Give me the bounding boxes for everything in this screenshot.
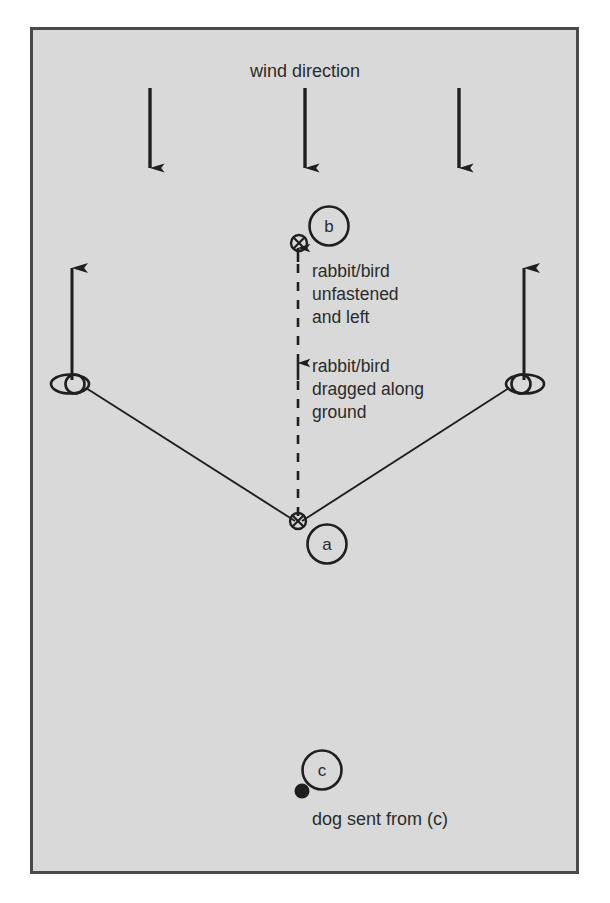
node-a-label: a [322,535,332,554]
annotation-lower-line-3: ground [312,402,367,422]
annotation-upper-line-1: rabbit/bird [312,261,390,281]
node-b-label: b [324,217,333,236]
dog-sent-caption: dog sent from (c) [312,809,448,829]
annotation-upper-line-2: unfastened [312,284,399,304]
annotation-lower-line-1: rabbit/bird [312,356,390,376]
scent-trail-diagram: wind direction [0,0,610,903]
figure-root: wind direction [0,0,610,903]
node-c-label: c [318,761,327,780]
wind-direction-label: wind direction [249,61,360,81]
annotation-upper-line-3: and left [312,307,370,327]
dog-start-dot-icon [295,784,310,799]
annotation-lower-line-2: dragged along [312,379,424,399]
